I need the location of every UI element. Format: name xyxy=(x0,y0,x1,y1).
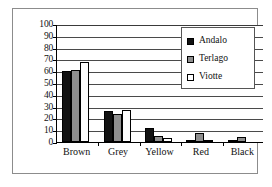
bar-group-brown xyxy=(57,25,98,142)
bar-red-viotte xyxy=(204,140,213,142)
x-axis-label-black: Black xyxy=(231,147,254,157)
y-axis-tick-label: 90 xyxy=(44,32,53,42)
legend-swatch-icon-terlago xyxy=(187,56,194,63)
bar-grey-terlago xyxy=(113,114,122,142)
y-axis-tick-label: 60 xyxy=(44,67,53,77)
x-axis-category-labels: BrownGreyYellowRedBlack xyxy=(56,147,263,163)
x-axis-label-brown: Brown xyxy=(63,147,90,157)
y-axis-tick-mark xyxy=(53,143,57,144)
legend-item-viotte[interactable]: Viotte xyxy=(187,68,250,86)
y-axis-tick-label: 70 xyxy=(44,56,53,66)
legend: Andalo Terlago Viotte xyxy=(181,27,255,89)
x-axis-tick-mark xyxy=(223,142,224,146)
bar-grey-viotte xyxy=(122,110,131,142)
legend-swatch-icon-viotte xyxy=(187,74,194,81)
bar-brown-terlago xyxy=(71,70,80,142)
y-axis-tick-label: 80 xyxy=(44,44,53,54)
x-axis-tick-mark xyxy=(140,142,141,146)
bar-yellow-andalo xyxy=(145,128,154,142)
x-axis-label-grey: Grey xyxy=(108,147,128,157)
legend-swatch-icon-andalo xyxy=(187,38,194,45)
y-axis-tick-label: 0 xyxy=(48,138,53,148)
y-axis-tick-label: 100 xyxy=(39,20,53,30)
bar-group-grey xyxy=(98,25,139,142)
legend-label-terlago: Terlago xyxy=(199,54,228,64)
x-axis-label-yellow: Yellow xyxy=(145,147,173,157)
bar-group-yellow xyxy=(140,25,181,142)
bar-black-terlago xyxy=(237,137,246,142)
legend-item-andalo[interactable]: Andalo xyxy=(187,32,250,50)
bar-brown-andalo xyxy=(62,71,71,142)
x-axis-tick-mark xyxy=(181,142,182,146)
y-axis-tick-label: 10 xyxy=(44,126,53,136)
bar-red-andalo xyxy=(186,140,195,142)
legend-label-viotte: Viotte xyxy=(199,72,222,82)
bar-yellow-terlago xyxy=(154,136,163,142)
legend-item-terlago[interactable]: Terlago xyxy=(187,50,250,68)
figure-frame: 1009080706050403020100 BrownGreyYellowRe… xyxy=(12,8,258,174)
x-axis-tick-mark xyxy=(98,142,99,146)
y-axis-tick-label: 30 xyxy=(44,103,53,113)
bar-yellow-viotte xyxy=(163,138,172,142)
x-axis-label-red: Red xyxy=(193,147,209,157)
y-axis-tick-labels: 1009080706050403020100 xyxy=(27,25,53,143)
y-axis-tick-label: 50 xyxy=(44,79,53,89)
y-axis-tick-label: 20 xyxy=(44,115,53,125)
legend-label-andalo: Andalo xyxy=(199,36,227,46)
bar-brown-viotte xyxy=(80,62,89,142)
bar-grey-andalo xyxy=(104,111,113,142)
y-axis-tick-label: 40 xyxy=(44,91,53,101)
bar-red-terlago xyxy=(195,133,204,142)
bar-black-andalo xyxy=(228,140,237,142)
